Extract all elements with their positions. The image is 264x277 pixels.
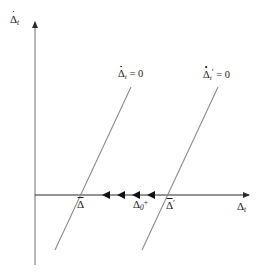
flow-arrow-icon (117, 191, 125, 199)
curve1-equation: = 0 (127, 68, 143, 79)
y-axis-label-symbol: Δ (10, 14, 17, 25)
delta-zero-superscript: + (144, 198, 148, 207)
curve2-symbol: Δ (203, 70, 210, 81)
curve-delta-dot-zero (55, 87, 131, 250)
curve2-equation: = 0 (214, 69, 230, 80)
x-axis-label: Δt (237, 201, 246, 214)
tick-label-delta-bar: Δ (77, 199, 84, 210)
x-axis-label-subscript: t (244, 205, 246, 214)
curve-label-delta-dot-prime-zero: Δ t′ = 0 (203, 69, 230, 82)
y-axis-label: Δ t (10, 14, 19, 27)
curve1-symbol: Δ (118, 69, 125, 80)
plot-canvas (0, 0, 264, 277)
tick-label-delta-zero-plus: Δ0+ (133, 199, 148, 212)
phase-diagram-figure: Δ t Δt Δ t = 0 Δ t′ = 0 Δ Δ0+ Δ (0, 0, 264, 277)
delta-bar-symbol: Δ (77, 199, 84, 210)
tick-label-delta-bar-prime: Δ ′ (166, 199, 175, 211)
y-axis-label-subscript: t (17, 18, 19, 27)
curve-delta-dot-prime-zero (142, 87, 218, 250)
flow-arrow-icon (102, 191, 110, 199)
curve-label-delta-dot-zero: Δ t = 0 (118, 69, 143, 81)
delta-bar-prime-mark: ′ (173, 198, 175, 208)
delta-bar-prime-symbol: Δ (166, 200, 173, 211)
flow-arrow-icon (147, 191, 155, 199)
